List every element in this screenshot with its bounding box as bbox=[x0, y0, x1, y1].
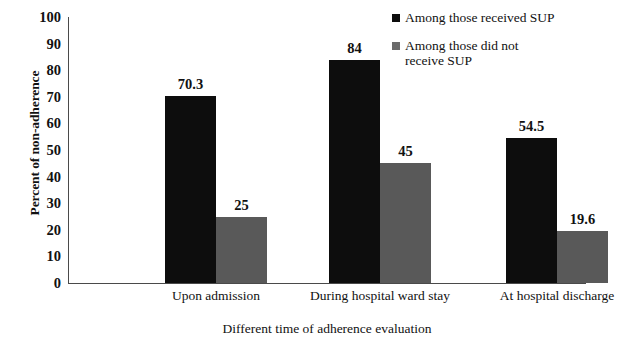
bar-value-label: 25 bbox=[204, 198, 279, 213]
y-tick-label: 40 bbox=[21, 169, 61, 184]
x-axis-tick-labels: Upon admissionDuring hospital ward stayA… bbox=[68, 289, 586, 313]
x-axis-title: Different time of adherence evaluation bbox=[68, 322, 586, 336]
legend-label: Among those received SUP bbox=[405, 10, 555, 26]
y-tick-label: 10 bbox=[21, 249, 61, 264]
y-tick-label: 70 bbox=[21, 90, 61, 105]
y-tick-label: 100 bbox=[21, 10, 61, 25]
y-axis-tick-labels: 0102030405060708090100 bbox=[0, 0, 66, 349]
gray-square-icon bbox=[392, 42, 400, 50]
bar bbox=[557, 231, 608, 283]
y-tick-label: 50 bbox=[21, 143, 61, 158]
y-tick-label: 20 bbox=[21, 223, 61, 238]
bar-value-label: 54.5 bbox=[494, 119, 569, 134]
x-tick-label: During hospital ward stay bbox=[280, 289, 480, 304]
x-tick-label: At hospital discharge bbox=[457, 289, 619, 304]
x-axis-line bbox=[68, 283, 586, 284]
bar bbox=[380, 163, 431, 283]
legend-entry[interactable]: Among those received SUP bbox=[392, 10, 597, 26]
bar-value-label: 70.3 bbox=[153, 77, 228, 92]
bar-value-label: 19.6 bbox=[545, 212, 619, 227]
y-tick-label: 0 bbox=[21, 276, 61, 291]
bar bbox=[329, 60, 380, 283]
y-tick-label: 80 bbox=[21, 63, 61, 78]
legend-entry[interactable]: Among those did not receive SUP bbox=[392, 38, 597, 69]
bar bbox=[165, 96, 216, 283]
bar bbox=[216, 217, 267, 284]
black-square-icon bbox=[392, 14, 400, 22]
y-tick-label: 90 bbox=[21, 36, 61, 51]
legend-label: Among those did not receive SUP bbox=[405, 38, 525, 69]
y-tick-label: 60 bbox=[21, 116, 61, 131]
chart-legend: Among those received SUPAmong those did … bbox=[392, 10, 597, 81]
bar-value-label: 45 bbox=[368, 144, 443, 159]
bar-value-label: 84 bbox=[317, 41, 392, 56]
y-tick-label: 30 bbox=[21, 196, 61, 211]
bar bbox=[506, 138, 557, 283]
